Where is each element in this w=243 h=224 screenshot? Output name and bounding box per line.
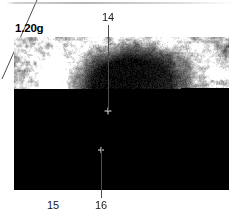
ultrasound-canvas <box>14 37 229 190</box>
callout-label-15: 15 <box>47 199 59 211</box>
leader-line-14 <box>108 25 109 111</box>
weight-label: 1.20g <box>15 22 43 35</box>
leader-line-16 <box>101 148 102 198</box>
callout-label-14: 14 <box>102 11 114 23</box>
top-divider-rule <box>6 2 234 4</box>
ultrasound-image <box>14 37 229 190</box>
callout-label-16: 16 <box>95 199 107 211</box>
